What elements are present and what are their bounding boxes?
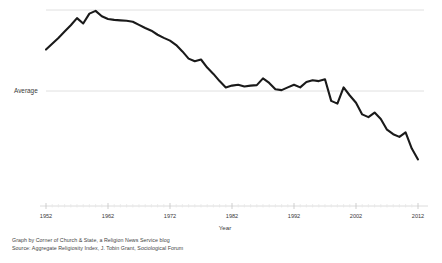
caption-line-1: Graph by Corner of Church & State, a Rel… [12, 237, 183, 245]
chart-container: 1952196219721982199220022012 Average Yea… [0, 0, 442, 263]
x-axis-tick-label: 1972 [164, 213, 176, 219]
average-reference-label: Average [14, 87, 38, 95]
x-axis-tick-labels: 1952196219721982199220022012 [40, 213, 424, 219]
x-axis-tick-label: 1962 [102, 213, 114, 219]
x-axis-tick-label: 1952 [40, 213, 52, 219]
x-axis: 1952196219721982199220022012 [40, 203, 428, 219]
caption-block: Graph by Corner of Church & State, a Rel… [12, 237, 183, 252]
caption-line-2: Source: Aggregate Religiosity Index, J. … [12, 245, 183, 253]
x-axis-ticks [46, 203, 418, 209]
x-axis-tick-label: 2012 [412, 213, 424, 219]
line-chart: 1952196219721982199220022012 Average Yea… [0, 0, 442, 263]
x-axis-tick-label: 2002 [350, 213, 362, 219]
data-series-line [46, 11, 418, 160]
x-axis-tick-label: 1992 [288, 213, 300, 219]
gridlines [46, 10, 424, 91]
x-axis-tick-label: 1982 [226, 213, 238, 219]
x-axis-title: Year [219, 224, 232, 231]
